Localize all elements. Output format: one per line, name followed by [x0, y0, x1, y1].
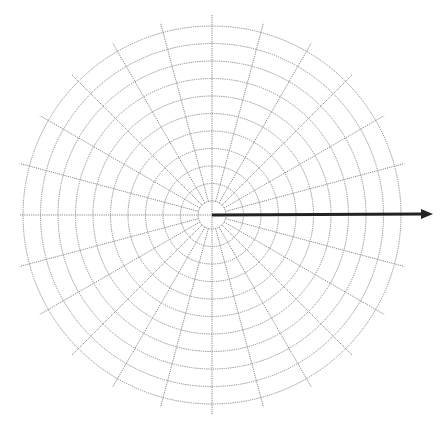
arrow-shaft — [212, 214, 423, 215]
radial-spoke — [71, 74, 202, 205]
vector-arrow — [212, 209, 433, 219]
radial-spoke — [222, 74, 353, 205]
arrow-head-icon — [421, 209, 433, 219]
radial-spoke — [219, 227, 312, 387]
radial-spoke — [40, 222, 200, 315]
axes — [20, 15, 212, 415]
radial-spoke — [222, 225, 353, 356]
polar-grid-diagram — [0, 0, 445, 431]
radial-spoke — [71, 225, 202, 356]
radial-spoke — [219, 43, 312, 203]
radial-spoke — [40, 116, 200, 209]
radial-spoke — [113, 227, 206, 387]
radial-spoke — [113, 43, 206, 203]
radial-spoke — [216, 229, 264, 408]
radial-spoke — [224, 222, 384, 315]
polar-grid-svg — [0, 0, 445, 431]
radial-spoke — [224, 116, 384, 209]
